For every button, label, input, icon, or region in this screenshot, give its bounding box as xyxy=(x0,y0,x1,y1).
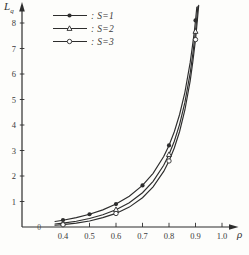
legend-row-s2: : S=2 xyxy=(52,22,114,35)
legend-marker-glyph xyxy=(67,26,72,31)
y-tick-label: 4 xyxy=(12,120,17,130)
point-s1-marker xyxy=(140,183,144,187)
y-tick-label: 7 xyxy=(12,44,16,54)
x-tick-label: 0.6 xyxy=(111,231,122,241)
point-s2-marker xyxy=(193,29,198,34)
legend-row-s3: : S=3 xyxy=(52,35,114,48)
legend-marker-glyph xyxy=(67,39,71,43)
y-tick-label: 1 xyxy=(12,197,16,207)
x-axis-label: ρ xyxy=(237,228,242,241)
legend-label-s2: : S=2 xyxy=(91,24,114,34)
legend: : S=1 : S=2 : S=3 xyxy=(52,9,114,48)
y-axis-arrow-icon xyxy=(19,2,25,12)
y-tick-label: 6 xyxy=(12,69,16,79)
y-tick-label: 3 xyxy=(12,146,16,156)
y-tick-label: 2 xyxy=(12,171,16,181)
x-tick-label: 0.8 xyxy=(164,231,175,241)
lq-vs-rho-queueing-chart: 123456780.40.50.60.70.80.91.00 Lq ρ : S=… xyxy=(0,0,249,255)
y-axis-label: Lq xyxy=(4,1,14,17)
point-s1-marker xyxy=(114,202,118,206)
legend-label-s1: : S=1 xyxy=(91,11,114,21)
y-axis-label-sub: q xyxy=(10,7,14,15)
point-s3-marker xyxy=(193,37,197,41)
legend-marker-glyph xyxy=(67,13,71,17)
legend-row-s1: : S=1 xyxy=(52,9,114,22)
point-s3-marker xyxy=(114,211,118,215)
point-s1-marker xyxy=(87,212,91,216)
legend-marker-s3-icon xyxy=(52,36,88,47)
point-s1-marker xyxy=(193,18,197,22)
legend-label-s3: : S=3 xyxy=(91,37,114,47)
x-tick-label: 0.7 xyxy=(137,231,148,241)
point-s3-marker xyxy=(61,223,65,227)
y-tick-label: 5 xyxy=(12,95,16,105)
chart-canvas: 123456780.40.50.60.70.80.91.00 xyxy=(0,0,249,255)
x-tick-label: 0.9 xyxy=(190,231,201,241)
x-tick-label: 0.5 xyxy=(84,231,95,241)
point-s1-marker xyxy=(167,143,171,147)
x-tick-label: 1.0 xyxy=(217,231,228,241)
x-tick-label: 0.4 xyxy=(58,231,69,241)
origin-label: 0 xyxy=(37,223,41,232)
point-s3-marker xyxy=(167,159,171,163)
legend-marker-s2-icon xyxy=(52,23,88,34)
point-s2-marker xyxy=(167,152,172,157)
y-tick-label: 8 xyxy=(12,18,16,28)
legend-marker-s1-icon xyxy=(52,10,88,21)
